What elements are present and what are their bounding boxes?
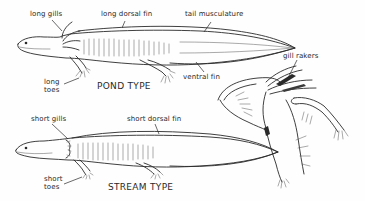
label-long-gills: long gills: [30, 10, 62, 18]
label-gill-rakers: gill rakers: [283, 52, 318, 60]
label-short-toes-line2: toes: [44, 183, 59, 191]
label-short-dorsal-fin: short dorsal fin: [127, 115, 181, 123]
stream-type-larva-drawing: [16, 131, 278, 179]
salamander-larva-diagram: long gills long dorsal fin tail musculat…: [0, 0, 365, 201]
label-long-dorsal-fin: long dorsal fin: [101, 10, 152, 18]
diagram-drawings: [0, 0, 365, 201]
pond-type-title: POND TYPE: [97, 81, 151, 91]
pond-type-larva-drawing: [18, 22, 295, 83]
gill-raker-detail-drawing: [218, 66, 348, 188]
label-long-toes-line2: toes: [44, 86, 59, 94]
label-ventral-fin: ventral fin: [183, 73, 220, 81]
label-tail-musculature: tail musculature: [185, 10, 243, 18]
label-short-toes-line1: short: [44, 175, 63, 183]
label-short-gills: short gills: [31, 115, 66, 123]
label-long-toes-line1: long: [44, 78, 60, 86]
stream-type-title: STREAM TYPE: [108, 182, 173, 192]
